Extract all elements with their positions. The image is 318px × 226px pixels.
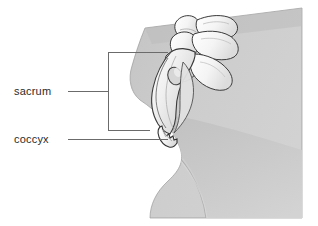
anatomy-illustration <box>0 0 318 226</box>
label-sacrum: sacrum <box>14 85 51 97</box>
label-coccyx: coccyx <box>14 133 49 145</box>
